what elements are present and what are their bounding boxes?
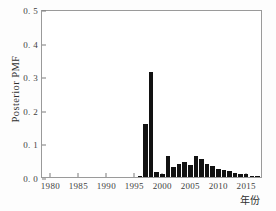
y-tick-mark: [42, 11, 46, 12]
chart-figure: Posterior PMF 0. 00. 10. 20. 30. 40. 5 1…: [0, 0, 276, 211]
x-tick-label: 1995: [125, 181, 144, 191]
y-tick-label: 0. 3: [23, 73, 38, 83]
x-tick-mark: [134, 173, 135, 177]
y-tick-mark: [42, 179, 46, 180]
bar: [255, 176, 260, 177]
x-tick-label: 2000: [153, 181, 172, 191]
bar: [166, 156, 171, 177]
bar: [177, 164, 182, 177]
y-tick-label: 0. 1: [23, 140, 38, 150]
y-tick-mark: [42, 145, 46, 146]
bar: [138, 176, 143, 177]
y-tick-label: 0. 2: [23, 107, 38, 117]
bar: [188, 165, 193, 177]
bar: [194, 156, 199, 178]
x-tick-label: 2010: [209, 181, 228, 191]
bar: [143, 124, 148, 177]
y-tick-mark: [42, 111, 46, 112]
x-tick-label: 2005: [181, 181, 200, 191]
x-tick-label: 1990: [97, 181, 116, 191]
x-tick-label: 1985: [69, 181, 88, 191]
bar: [222, 170, 227, 177]
bar: [205, 164, 210, 177]
x-tick-label: 1980: [41, 181, 60, 191]
y-tick-mark: [42, 78, 46, 79]
bar: [199, 159, 204, 177]
x-tick-label: 2015: [237, 181, 256, 191]
y-tick-label: 0. 5: [23, 6, 38, 16]
y-tick-label: 0. 0: [23, 174, 38, 184]
y-tick-mark: [42, 44, 46, 45]
bar: [171, 167, 176, 177]
x-tick-mark: [50, 173, 51, 177]
y-tick-label: 0. 4: [23, 40, 38, 50]
y-axis-title: Posterior PMF: [10, 14, 21, 164]
bar: [250, 176, 255, 177]
bar: [233, 173, 238, 177]
bar: [227, 171, 232, 177]
bar: [216, 169, 221, 177]
bar: [160, 174, 165, 177]
x-tick-mark: [78, 173, 79, 177]
bar: [149, 72, 154, 177]
x-tick-mark: [106, 173, 107, 177]
x-axis-title: 年份: [240, 192, 261, 207]
bar: [210, 166, 215, 177]
bar: [238, 174, 243, 177]
plot-area: 0. 00. 10. 20. 30. 40. 5 198019851990199…: [41, 10, 262, 178]
bar: [244, 174, 249, 177]
bar: [182, 162, 187, 177]
bar: [154, 172, 159, 177]
